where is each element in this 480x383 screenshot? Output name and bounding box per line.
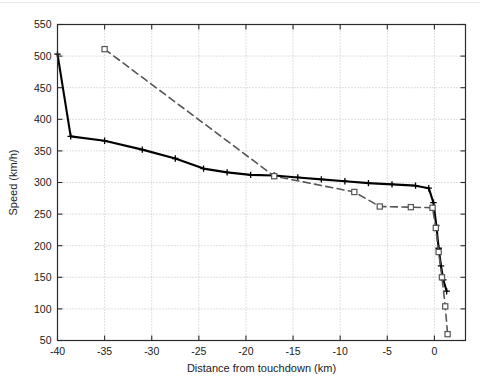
y-tick-label-4: 250 <box>34 208 52 220</box>
series-marker-dashed-profile-6 <box>433 225 438 230</box>
y-tick-label-9: 500 <box>34 50 52 62</box>
series-marker-dashed-profile-1 <box>272 174 277 179</box>
y-tick-label-2: 150 <box>34 271 52 283</box>
series-marker-dashed-profile-5 <box>430 205 435 210</box>
x-tick-label-1: -35 <box>97 345 112 357</box>
series-marker-dashed-profile-0 <box>102 47 107 52</box>
x-tick-label-2: -30 <box>144 345 159 357</box>
scan-artifact <box>0 2 480 3</box>
speed-vs-distance-chart: 50100150200250300350400450500550-40-35-3… <box>0 0 480 383</box>
series-marker-dashed-profile-8 <box>439 275 444 280</box>
x-tick-label-8: 0 <box>431 345 437 357</box>
series-marker-dashed-profile-4 <box>408 205 413 210</box>
x-tick-label-0: -40 <box>50 345 65 357</box>
figure-canvas: 50100150200250300350400450500550-40-35-3… <box>0 0 480 383</box>
y-tick-label-6: 350 <box>34 145 52 157</box>
y-tick-label-7: 400 <box>34 113 52 125</box>
y-tick-label-3: 200 <box>34 240 52 252</box>
x-tick-label-6: -10 <box>333 345 348 357</box>
x-tick-label-4: -20 <box>238 345 253 357</box>
series-marker-dashed-profile-9 <box>443 304 448 309</box>
y-tick-label-10: 550 <box>34 18 52 30</box>
x-tick-label-3: -25 <box>191 345 206 357</box>
series-marker-dashed-profile-3 <box>377 204 382 209</box>
y-tick-label-1: 100 <box>34 303 52 315</box>
x-tick-label-5: -15 <box>285 345 300 357</box>
series-marker-dashed-profile-7 <box>436 249 441 254</box>
y-axis-title: Speed (km/h) <box>7 149 19 215</box>
x-tick-label-7: -5 <box>383 345 392 357</box>
y-tick-label-8: 450 <box>34 82 52 94</box>
series-marker-dashed-profile-2 <box>352 189 357 194</box>
x-axis-title: Distance from touchdown (km) <box>187 362 336 374</box>
y-tick-label-5: 300 <box>34 176 52 188</box>
series-marker-dashed-profile-10 <box>445 332 450 337</box>
